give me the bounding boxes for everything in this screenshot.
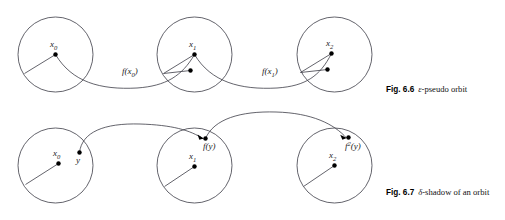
point-x2-label-sub: 2 bbox=[330, 43, 334, 50]
point-x0-dot bbox=[53, 52, 57, 56]
figure-6-7-caption: Fig. 6.7δ-shadow of an orbit bbox=[386, 188, 489, 197]
point-f2y-label: f2(y) bbox=[345, 140, 361, 151]
figure-6-6-caption-text: ε-pseudo orbit bbox=[418, 84, 467, 94]
point-y-label: y bbox=[75, 155, 80, 165]
radius-x2-left bbox=[304, 166, 335, 187]
figure-6-6-caption-number: Fig. 6.6 bbox=[386, 85, 414, 94]
label-f-x1: f(x1) bbox=[262, 66, 278, 78]
figure-6-7-caption-text: δ-shadow of an orbit bbox=[418, 187, 489, 197]
point-fy-label: f(y) bbox=[203, 141, 216, 151]
point-x2-label: x2 bbox=[328, 150, 337, 162]
figure-6-6-orbit-curves bbox=[56, 54, 332, 89]
figure-6-6-group: x0x1x2 f(x0)f(x1) bbox=[18, 17, 372, 92]
point-fx1-image-dot bbox=[325, 67, 329, 71]
point-x0-label: x0 bbox=[49, 39, 58, 51]
figure-6-7-point-labels: x0yx1f(y)x2f2(y) bbox=[52, 140, 361, 165]
label-f-x0: f(x0) bbox=[122, 66, 138, 78]
figure-6-6-map-labels: f(x0)f(x1) bbox=[122, 66, 278, 78]
figure-sheet: x0x1x2 f(x0)f(x1) x0yx1f(y)x2f2(y) Fig. … bbox=[0, 0, 505, 220]
label-f-x1-tail: ) bbox=[274, 66, 278, 76]
circle-x2 bbox=[297, 17, 372, 92]
figure-6-6-caption: Fig. 6.6ε-pseudo orbit bbox=[386, 85, 467, 94]
figure-6-6-orbit-points bbox=[53, 51, 333, 72]
point-x1-dot bbox=[192, 164, 196, 168]
point-x0-dot bbox=[56, 161, 60, 165]
curve-fy-to-f2y bbox=[206, 112, 347, 139]
figure-6-6-radius-lines bbox=[25, 54, 332, 74]
point-x1-label: x1 bbox=[188, 39, 196, 51]
label-f-x0-tail: ) bbox=[134, 66, 138, 76]
radius-x1-left bbox=[165, 167, 195, 187]
figure-6-7-caption-body: -shadow of an orbit bbox=[422, 187, 489, 197]
point-x0-label-sub: 0 bbox=[57, 153, 61, 160]
curve-y-to-fy bbox=[80, 124, 204, 153]
point-x2-label: x2 bbox=[325, 38, 334, 50]
figure-6-7-group: x0yx1f(y)x2f2(y) bbox=[18, 112, 372, 203]
point-f2y-label-tail: (y) bbox=[351, 141, 361, 151]
figure-6-7-arrowheads bbox=[198, 135, 347, 140]
point-x1-label-sub: 1 bbox=[193, 156, 196, 163]
point-x2-dot bbox=[332, 163, 336, 167]
point-x2-dot bbox=[329, 51, 333, 55]
radius-x0-left bbox=[25, 55, 56, 74]
radius-x0-left bbox=[26, 164, 59, 185]
figure-6-7-radius-lines bbox=[26, 164, 335, 187]
point-fx0-image-dot bbox=[188, 68, 192, 72]
figure-6-6-caption-body: -pseudo orbit bbox=[422, 84, 468, 94]
point-x1-label: x1 bbox=[188, 151, 196, 163]
point-x0-label: x0 bbox=[52, 148, 61, 160]
figure-6-7-caption-number: Fig. 6.7 bbox=[386, 188, 414, 197]
point-x1-dot bbox=[192, 52, 196, 56]
point-x0-label-sub: 0 bbox=[54, 44, 58, 51]
point-x2-label-sub: 2 bbox=[333, 155, 337, 162]
point-x1-label-sub: 1 bbox=[193, 44, 196, 51]
